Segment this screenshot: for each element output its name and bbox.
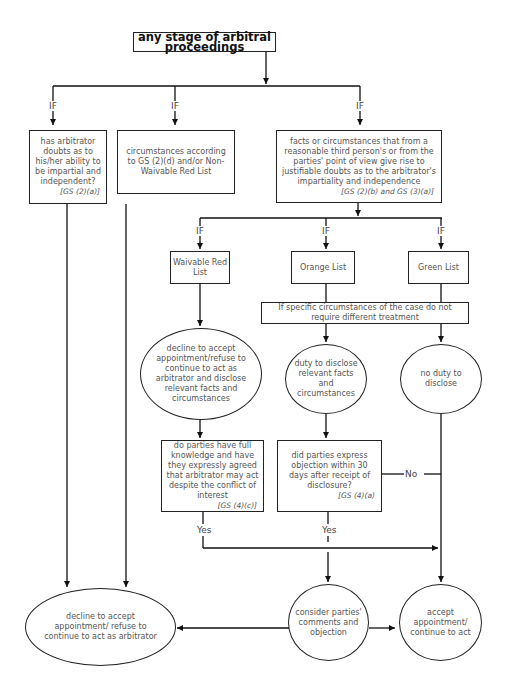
node-orange-list-text: Orange List <box>300 263 346 273</box>
if-label: IF <box>322 226 330 236</box>
node-facts: facts or circumstances that from a reaso… <box>276 130 442 203</box>
node-consider-comments-text: consider parties' comments and objection <box>295 608 362 638</box>
node-full-knowledge-ref: [GS (4)(c)] <box>218 501 260 511</box>
node-no-duty-to-disclose-text: no duty to disclose <box>415 369 467 389</box>
title-text: any stage of arbitral proceedings <box>134 32 275 52</box>
node-full-knowledge-text: do parties have full knowledge and have … <box>165 441 260 501</box>
edge-label-yes: Yes <box>197 525 212 535</box>
node-facts-ref: [GS (2)(b) and GS (3)(a)] <box>341 187 437 197</box>
node-accept-appointment: accept appointment/ continue to act <box>399 584 482 661</box>
node-doubts-text: has arbitrator doubts as to his/her abil… <box>33 137 103 187</box>
node-duty-to-disclose-text: duty to disclose relevant facts and circ… <box>292 359 360 399</box>
node-doubts: has arbitrator doubts as to his/her abil… <box>29 130 107 204</box>
node-non-waivable: circumstances according to GS (2)(d) and… <box>117 130 235 194</box>
node-waivable-red-list-text: Waivable Red List <box>171 258 229 278</box>
node-decline-final-text: decline to accept appointment/ refuse to… <box>42 612 159 642</box>
if-label: IF <box>356 101 364 111</box>
node-green-list-text: Green List <box>418 263 459 273</box>
node-no-duty-to-disclose: no duty to disclose <box>400 344 482 414</box>
node-specific-circumstances-text: If specific circumstances of the case do… <box>268 303 462 323</box>
edge-label-yes: Yes <box>322 525 337 535</box>
node-decline-and-disclose-text: decline to accept appointment/refuse to … <box>153 344 249 404</box>
node-consider-comments: consider parties' comments and objection <box>288 584 369 661</box>
node-waivable-red-list: Waivable Red List <box>170 251 230 284</box>
node-facts-text: facts or circumstances that from a reaso… <box>281 137 437 187</box>
node-doubts-ref: [GS (2)(a)] <box>60 187 103 197</box>
node-specific-circumstances: If specific circumstances of the case do… <box>261 302 469 324</box>
if-label: IF <box>196 226 204 236</box>
if-label: IF <box>437 226 445 236</box>
node-decline-and-disclose: decline to accept appointment/refuse to … <box>140 328 262 420</box>
node-non-waivable-text: circumstances according to GS (2)(d) and… <box>124 147 228 177</box>
node-decline-final: decline to accept appointment/ refuse to… <box>25 588 176 666</box>
node-duty-to-disclose: duty to disclose relevant facts and circ… <box>285 344 367 414</box>
if-label: IF <box>171 101 179 111</box>
node-full-knowledge: do parties have full knowledge and have … <box>161 440 264 512</box>
if-label: IF <box>49 101 57 111</box>
node-accept-appointment-text: accept appointment/ continue to act <box>408 608 473 638</box>
node-objection-ref: [GS (4)(a) <box>338 491 378 501</box>
node-objection: did parties express objection within 30 … <box>277 440 382 512</box>
node-objection-text: did parties express objection within 30 … <box>281 451 378 491</box>
node-green-list: Green List <box>408 251 469 284</box>
node-orange-list: Orange List <box>291 251 355 284</box>
start-node-title: any stage of arbitral proceedings <box>133 32 276 52</box>
edge-label-no: No <box>405 469 417 479</box>
